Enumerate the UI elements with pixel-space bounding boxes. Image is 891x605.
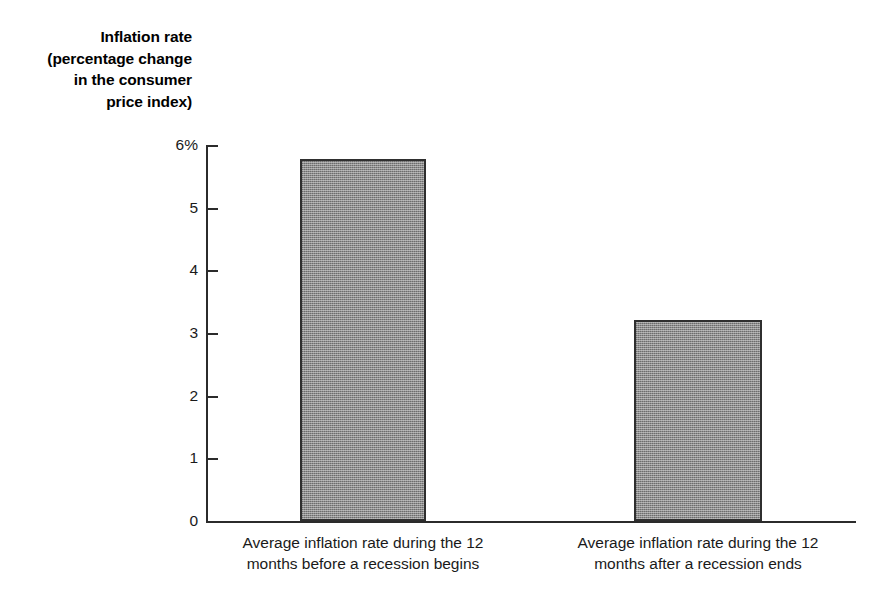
y-axis-tick-2 xyxy=(208,396,218,398)
x-axis-line xyxy=(206,521,856,523)
y-axis-tick-5 xyxy=(208,208,218,210)
x-axis-label-before-recession-line-2: months before a recession begins xyxy=(205,553,521,574)
y-axis-title-line-3: in the consumer xyxy=(0,69,192,91)
x-axis-label-before-recession: Average inflation rate during the 12 mon… xyxy=(205,532,521,574)
y-axis-title-line-2: (percentage change xyxy=(0,48,192,70)
y-axis-title-line-4: price index) xyxy=(0,91,192,113)
x-axis-label-after-recession: Average inflation rate during the 12 mon… xyxy=(540,532,856,574)
bar-after-recession xyxy=(634,320,762,521)
y-axis-tick-label-0: 0 xyxy=(138,513,198,529)
y-axis-tick-label-2: 2 xyxy=(138,388,198,404)
x-axis-label-after-recession-line-1: Average inflation rate during the 12 xyxy=(540,532,856,553)
y-axis-tick-label-1: 1 xyxy=(138,450,198,466)
y-axis-tick-1 xyxy=(208,458,218,460)
y-axis-tick-label-6: 6% xyxy=(138,137,198,153)
y-axis-tick-label-4: 4 xyxy=(138,262,198,278)
bar-before-recession xyxy=(300,159,426,521)
y-axis-title-line-1: Inflation rate xyxy=(0,26,192,48)
y-axis-title: Inflation rate (percentage change in the… xyxy=(0,26,192,112)
x-axis-label-after-recession-line-2: months after a recession ends xyxy=(540,553,856,574)
y-axis-tick-label-5: 5 xyxy=(138,200,198,216)
y-axis-tick-4 xyxy=(208,270,218,272)
x-axis-label-before-recession-line-1: Average inflation rate during the 12 xyxy=(205,532,521,553)
bar-chart: Inflation rate (percentage change in the… xyxy=(0,0,891,605)
y-axis-tick-label-3: 3 xyxy=(138,325,198,341)
y-axis-tick-6 xyxy=(208,145,218,147)
y-axis-tick-3 xyxy=(208,333,218,335)
